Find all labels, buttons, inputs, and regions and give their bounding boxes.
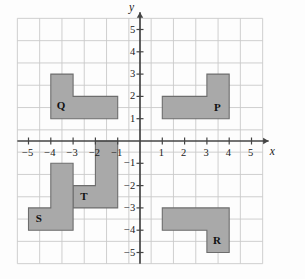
x-tick-label-pos3: 3 <box>203 148 208 159</box>
x-tick-label-neg1: −1 <box>111 148 122 159</box>
y-tick-label-neg2: −2 <box>124 181 135 192</box>
y-tick-label-pos1: 1 <box>130 114 135 125</box>
x-tick-label-pos1: 1 <box>159 148 164 159</box>
y-tick-label-neg1: −1 <box>124 158 135 169</box>
shape-label-p: P <box>214 102 221 113</box>
x-tick-label-neg2: −2 <box>89 148 100 159</box>
x-tick-label-pos4: 4 <box>226 148 231 159</box>
plot-canvas <box>0 0 305 279</box>
x-axis-arrow-icon <box>263 138 269 144</box>
y-axis-label: y <box>129 2 134 14</box>
x-tick-label-pos2: 2 <box>181 148 186 159</box>
shape-label-t: T <box>80 191 87 202</box>
y-tick-label-pos4: 4 <box>130 47 135 58</box>
x-tick-label-neg3: −3 <box>67 148 78 159</box>
y-tick-label-neg5: −5 <box>124 248 135 259</box>
shape-label-s: S <box>36 213 42 224</box>
coordinate-plane-figure: −5−4−3−2−11234554321−1−2−3−4−5xyQPTSR <box>0 0 305 279</box>
y-tick-label-pos2: 2 <box>130 91 135 102</box>
x-tick-label-neg4: −4 <box>44 148 55 159</box>
y-tick-label-neg4: −4 <box>124 225 135 236</box>
shape-label-q: Q <box>57 100 66 111</box>
x-axis-label: x <box>270 146 275 158</box>
x-tick-label-neg5: −5 <box>22 148 33 159</box>
y-tick-label-pos3: 3 <box>130 69 135 80</box>
y-tick-label-neg3: −3 <box>124 203 135 214</box>
y-tick-label-pos5: 5 <box>130 25 135 36</box>
y-axis-arrow-icon <box>137 12 143 18</box>
x-tick-label-pos5: 5 <box>248 148 253 159</box>
shape-label-r: R <box>213 235 221 246</box>
